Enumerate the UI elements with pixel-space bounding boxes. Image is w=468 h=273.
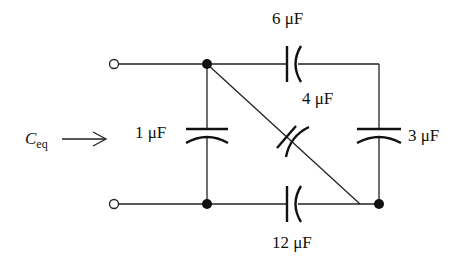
label-ceq: Ceq bbox=[25, 129, 48, 151]
label-3uf: 3 μF bbox=[408, 126, 439, 145]
node-bottom-left bbox=[202, 199, 212, 209]
terminal-bottom bbox=[110, 200, 119, 209]
terminal-top bbox=[110, 60, 119, 69]
node-bottom-right bbox=[374, 199, 384, 209]
arrow-right-icon bbox=[62, 132, 106, 146]
label-4uf: 4 μF bbox=[302, 89, 333, 108]
label-6uf: 6 μF bbox=[272, 9, 303, 28]
label-1uf: 1 μF bbox=[135, 123, 166, 142]
label-12uf: 12 μF bbox=[272, 233, 312, 252]
circuit-diagram: Ceq 6 μF 4 μF 1 μF 3 μF 12 μF bbox=[0, 0, 468, 273]
node-top-left bbox=[202, 59, 212, 69]
